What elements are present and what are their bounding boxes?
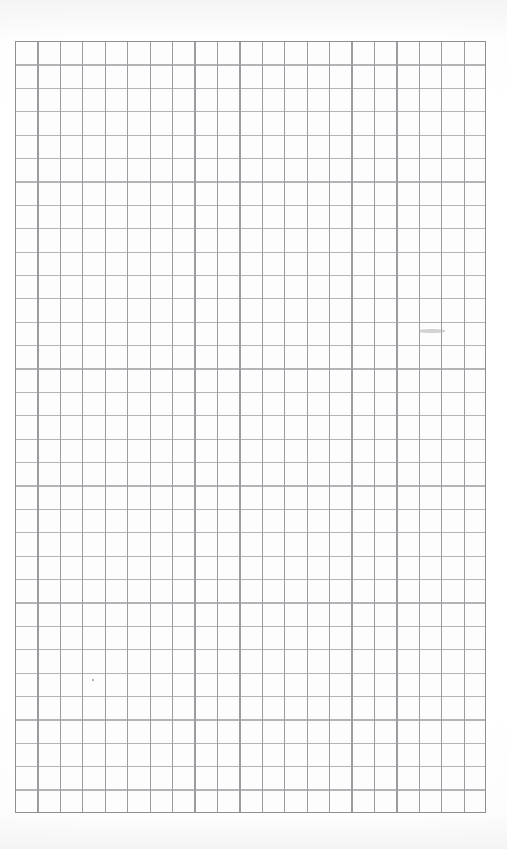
- scanned-grid-paper-page: [0, 0, 507, 849]
- grid-cell-tint: [15, 41, 486, 813]
- scan-edge-shadow-top: [0, 0, 507, 41]
- scan-edge-shadow-bottom: [0, 813, 507, 849]
- graph-paper-grid: [15, 41, 486, 813]
